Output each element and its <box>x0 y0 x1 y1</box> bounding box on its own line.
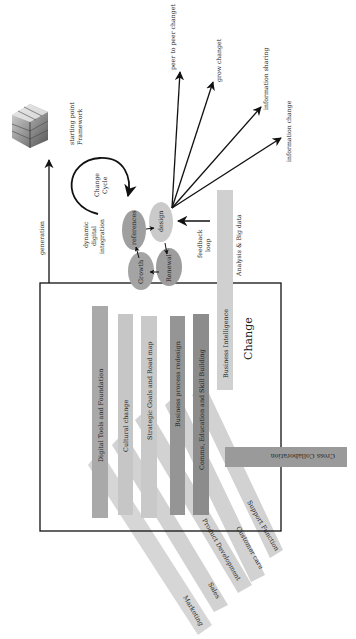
change-title: Change <box>242 317 255 360</box>
integration-label-3: integration <box>98 219 106 254</box>
generation-label: generation <box>38 221 46 255</box>
framework-label: Framework <box>76 109 83 145</box>
node-renewal: Renewal <box>156 248 182 286</box>
pillar-label-cultural-change: Cultural change <box>122 400 130 452</box>
change-cycle-label-1: Change <box>93 173 101 197</box>
cycle-nodes: references design Growth Renewal <box>122 202 182 290</box>
integration-label-2: digital <box>90 226 98 246</box>
starting-point-label: starting point <box>68 102 76 145</box>
pillar-label-digital-tools: Digital Tools and Foundation <box>97 369 105 462</box>
pillar-digital-tools: Digital Tools and Foundation <box>92 306 108 518</box>
pillar-label-comms-education: Comms, Education and Skill Building <box>198 349 206 470</box>
analysis-bar: Business Intelligence Analysis & Big dat… <box>217 190 243 390</box>
node-design: design <box>149 202 173 242</box>
cube-icon <box>12 104 48 148</box>
output-label-peer-to-peer: peer to peer changet <box>169 4 177 70</box>
node-references: references <box>122 210 146 250</box>
node-growth: Growth <box>128 252 154 290</box>
function-bars: Marketing Sales Product Development Cust… <box>88 385 283 635</box>
pillar-strategic-goals: Strategic Goals and Road map <box>141 316 157 518</box>
pillar-label-business-process: Business process redesign <box>174 341 182 427</box>
integration-label-1: dynamic <box>82 221 90 248</box>
pillar-business-process: Business process redesign <box>170 316 185 515</box>
node-label-design: design <box>157 211 165 232</box>
pillar-label-strategic-goals: Strategic Goals and Road map <box>146 341 154 440</box>
analysis-big-data-label: Analysis & Big data <box>235 214 243 277</box>
pillar-cultural-change: Cultural change <box>118 314 133 515</box>
business-intelligence-label: Business Intelligence <box>222 309 230 378</box>
generation-arrow: generation <box>38 160 49 283</box>
node-label-references: references <box>130 210 138 245</box>
output-label-information-change: information change <box>285 100 293 162</box>
feedback-label-1: feedback <box>196 229 203 258</box>
change-cycle-label-2: Cycle <box>101 176 109 194</box>
node-label-renewal: Renewal <box>165 254 173 282</box>
node-label-growth: Growth <box>137 260 145 284</box>
change-diagram: Marketing Sales Product Development Cust… <box>0 0 356 639</box>
cross-collaboration-label: Cross Collaboration <box>271 452 335 460</box>
cross-collaboration-bar: Cross Collaboration <box>225 447 347 467</box>
feedback-label-2: loop <box>204 239 212 252</box>
output-label-information-sharing: information sharing <box>262 48 270 110</box>
output-label-grow: grow changet <box>215 38 223 82</box>
pillar-comms-education: Comms, Education and Skill Building <box>193 314 209 515</box>
